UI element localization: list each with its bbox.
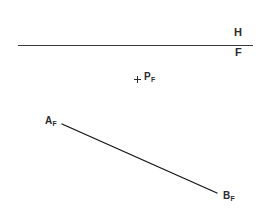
geometry-drawing	[0, 0, 271, 216]
fold-line-label-h-letter: H	[234, 26, 242, 38]
point-p-cross-icon	[134, 76, 141, 83]
point-p-letter: P	[144, 71, 151, 82]
point-a-subscript: F	[53, 120, 57, 127]
point-b-label: BF	[223, 191, 234, 201]
fold-line-label-f: F	[235, 47, 242, 58]
drawing-canvas: H F PF AF BF	[0, 0, 271, 216]
point-p-label: PF	[144, 72, 155, 82]
point-a-letter: A	[45, 115, 52, 126]
point-b-subscript: F	[231, 195, 235, 202]
point-p-subscript: F	[151, 76, 155, 83]
point-b-letter: B	[223, 190, 230, 201]
point-a-label: AF	[45, 116, 56, 126]
segment-ab-line	[62, 124, 217, 193]
fold-line-label-f-letter: F	[235, 46, 242, 58]
fold-line-label-h: H	[234, 27, 242, 38]
